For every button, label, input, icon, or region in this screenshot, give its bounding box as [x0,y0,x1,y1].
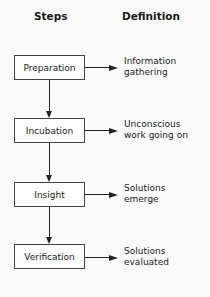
arrow-right-icon [109,192,118,198]
connector-line [49,143,50,175]
definition-header: Definition [122,10,180,22]
arrow-down-icon [46,111,52,118]
arrow-right-icon [109,255,118,261]
steps-header: Steps [34,10,67,22]
step-box-preparation: Preparation [14,55,85,80]
connector-line [49,80,50,111]
arrow-line [85,257,109,258]
arrow-down-icon [46,237,52,244]
step-box-verification: Verification [14,244,85,269]
definition-preparation: Information gathering [124,56,176,78]
arrow-line [85,194,109,195]
arrow-right-icon [109,128,118,134]
definition-insight: Solutions emerge [124,183,165,205]
arrow-down-icon [46,175,52,182]
arrow-line [85,130,109,131]
step-box-incubation: Incubation [14,118,85,143]
definition-incubation: Unconscious work going on [124,119,188,141]
connector-line [49,207,50,237]
definition-verification: Solutions evaluated [124,246,169,268]
arrow-right-icon [109,65,118,71]
step-box-insight: Insight [14,182,85,207]
arrow-line [85,67,109,68]
